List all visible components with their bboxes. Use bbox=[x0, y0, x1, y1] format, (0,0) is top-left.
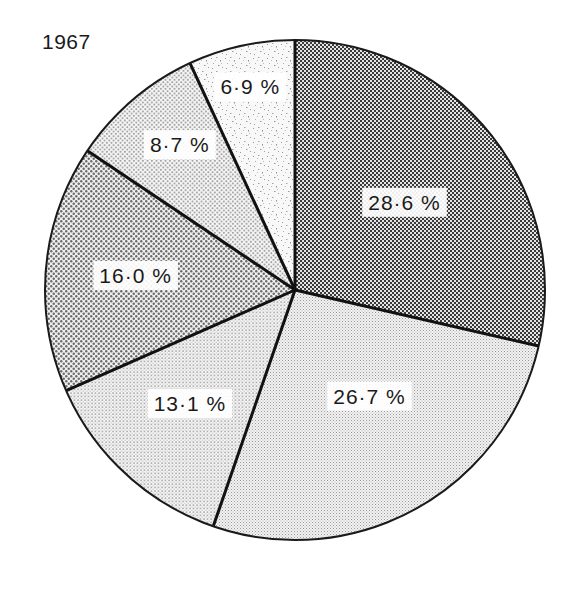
slice-label: 6·9 % bbox=[214, 72, 286, 101]
svg-text:13·1 %: 13·1 % bbox=[154, 392, 227, 415]
svg-text:28·6 %: 28·6 % bbox=[368, 191, 441, 214]
slice-label: 28·6 % bbox=[362, 188, 447, 217]
svg-text:8·7 %: 8·7 % bbox=[150, 133, 210, 156]
pie-chart: 28·6 %26·7 %13·1 %16·0 %8·7 %6·9 % bbox=[0, 0, 577, 593]
slice-label: 16·0 % bbox=[93, 261, 178, 290]
slice-label: 26·7 % bbox=[327, 382, 412, 411]
slice-label: 13·1 % bbox=[148, 389, 233, 418]
slice-label: 8·7 % bbox=[144, 130, 216, 159]
pie-slices bbox=[45, 40, 545, 540]
svg-text:16·0 %: 16·0 % bbox=[99, 264, 172, 287]
svg-text:26·7 %: 26·7 % bbox=[333, 385, 406, 408]
svg-text:6·9 %: 6·9 % bbox=[220, 75, 280, 98]
